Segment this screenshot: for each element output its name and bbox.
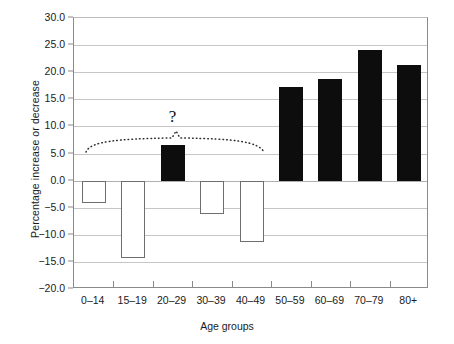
bar-20-29 — [161, 145, 185, 180]
x-tick-label: 70–79 — [354, 294, 383, 306]
y-tick-label: 25.0 — [5, 38, 65, 50]
y-tick-mark — [68, 44, 73, 45]
bar-40-49 — [240, 181, 264, 242]
y-tick-label: 5.0 — [5, 147, 65, 159]
x-tick-label: 40–49 — [236, 294, 265, 306]
y-tick-label: −5.0 — [5, 201, 65, 213]
y-tick-mark — [68, 206, 73, 207]
x-tick-label: 20–29 — [157, 294, 186, 306]
gridline — [74, 262, 427, 263]
x-tick-mark — [113, 281, 114, 287]
y-tick-mark — [68, 179, 73, 180]
x-tick-label: 60–69 — [315, 294, 344, 306]
bar-80+ — [397, 65, 421, 181]
x-tick-mark — [271, 281, 272, 287]
x-tick-label: 0–14 — [81, 294, 104, 306]
x-tick-mark — [153, 281, 154, 287]
y-tick-mark — [68, 260, 73, 261]
y-tick-mark — [68, 98, 73, 99]
x-tick-label: 15–19 — [118, 294, 147, 306]
y-tick-mark — [68, 125, 73, 126]
x-tick-mark — [232, 281, 233, 287]
y-tick-label: 20.0 — [5, 65, 65, 77]
y-tick-mark — [68, 152, 73, 153]
x-tick-mark — [390, 281, 391, 287]
gridline — [74, 45, 427, 46]
bar-30-39 — [200, 181, 224, 214]
y-tick-mark — [68, 17, 73, 18]
bar-chart: Percentage increase or decrease Age grou… — [0, 0, 454, 344]
x-tick-label: 30–39 — [196, 294, 225, 306]
x-tick-label: 80+ — [399, 294, 417, 306]
y-tick-mark — [68, 233, 73, 234]
plot-area — [73, 17, 428, 288]
y-tick-label: −10.0 — [5, 228, 65, 240]
bar-70-79 — [358, 50, 382, 181]
y-tick-label: −20.0 — [5, 282, 65, 294]
x-tick-label: 50–59 — [275, 294, 304, 306]
y-tick-mark — [68, 71, 73, 72]
y-tick-label: −15.0 — [5, 255, 65, 267]
y-tick-label: 15.0 — [5, 92, 65, 104]
x-axis-title: Age groups — [0, 320, 454, 332]
bar-0-14 — [82, 181, 106, 204]
x-tick-mark — [350, 281, 351, 287]
x-tick-mark — [311, 281, 312, 287]
y-tick-label: 30.0 — [5, 11, 65, 23]
y-tick-label: 0.0 — [5, 174, 65, 186]
x-tick-mark — [192, 281, 193, 287]
y-tick-mark — [68, 288, 73, 289]
y-tick-label: 10.0 — [5, 119, 65, 131]
bar-50-59 — [279, 87, 303, 181]
question-mark-annotation: ? — [169, 107, 177, 127]
bar-15-19 — [121, 181, 145, 259]
bar-60-69 — [318, 79, 342, 181]
